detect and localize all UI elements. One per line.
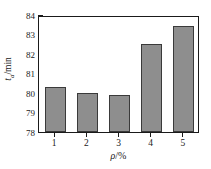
x-axis-title: ρ/% [38,150,199,161]
x-tick-mark [54,133,55,137]
x-tick-label: 4 [139,138,163,148]
bar [109,95,130,132]
x-tick-mark [150,133,151,137]
bars-layer [39,17,198,132]
plot-area [38,16,199,133]
x-tick-mark [118,133,119,137]
bar [173,26,194,132]
x-tick-label: 1 [42,138,66,148]
y-tick-label: 78 [13,129,35,138]
y-tick-label: 84 [13,12,35,21]
x-tick-label: 2 [74,138,98,148]
x-tick-mark [182,133,183,137]
bar [45,87,66,132]
y-tick-label: 82 [13,51,35,60]
bar-chart: ta/min 84838281807978 12345 ρ/% [0,0,211,169]
y-tick-label: 79 [13,109,35,118]
x-tick-mark [86,133,87,137]
y-tick-label: 80 [13,90,35,99]
x-tick-label: 3 [107,138,131,148]
bar [77,93,98,132]
y-tick-label: 83 [13,31,35,40]
bar [141,44,162,132]
y-tick-label: 81 [13,70,35,79]
x-tick-label: 5 [171,138,195,148]
